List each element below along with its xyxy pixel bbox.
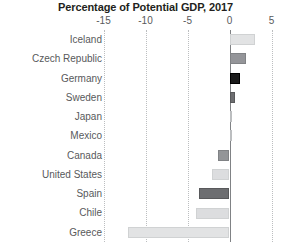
bar-czech-republic — [230, 53, 247, 64]
category-label-iceland: Iceland — [0, 30, 102, 49]
bar-canada — [218, 150, 230, 161]
chart-row: Greece — [0, 223, 291, 242]
category-label-czech-republic: Czech Republic — [0, 49, 102, 68]
chart-row: Sweden — [0, 88, 291, 107]
x-tick-label-neg15: -15 — [91, 15, 117, 26]
bar-chile — [196, 208, 230, 219]
bar-germany — [230, 73, 240, 84]
chart-row: Spain — [0, 184, 291, 203]
x-tick-label-5: 5 — [259, 15, 285, 26]
chart-row: Chile — [0, 203, 291, 222]
category-label-greece: Greece — [0, 223, 102, 242]
category-label-united-states: United States — [0, 165, 102, 184]
bar-greece — [128, 227, 230, 238]
bar-japan — [230, 111, 232, 122]
category-label-japan: Japan — [0, 107, 102, 126]
category-label-sweden: Sweden — [0, 88, 102, 107]
category-label-mexico: Mexico — [0, 126, 102, 145]
chart-container: Percentage of Potential GDP, 2017 -15-10… — [0, 0, 291, 242]
category-label-chile: Chile — [0, 203, 102, 222]
plot-area: IcelandCzech RepublicGermanySwedenJapanM… — [0, 30, 291, 242]
chart-title: Percentage of Potential GDP, 2017 — [0, 1, 291, 13]
category-label-spain: Spain — [0, 184, 102, 203]
chart-row: Iceland — [0, 30, 291, 49]
chart-row: Canada — [0, 146, 291, 165]
bar-united-states — [212, 169, 230, 180]
x-tick-label-0: 0 — [217, 15, 243, 26]
bar-spain — [199, 188, 229, 199]
chart-row: Germany — [0, 69, 291, 88]
bar-mexico — [230, 130, 232, 141]
category-label-canada: Canada — [0, 146, 102, 165]
x-tick-label-neg5: -5 — [175, 15, 201, 26]
bar-sweden — [230, 92, 236, 103]
chart-row: Mexico — [0, 126, 291, 145]
chart-row: United States — [0, 165, 291, 184]
chart-row: Japan — [0, 107, 291, 126]
category-label-germany: Germany — [0, 69, 102, 88]
bar-iceland — [230, 34, 255, 45]
chart-row: Czech Republic — [0, 49, 291, 68]
x-tick-label-neg10: -10 — [133, 15, 159, 26]
